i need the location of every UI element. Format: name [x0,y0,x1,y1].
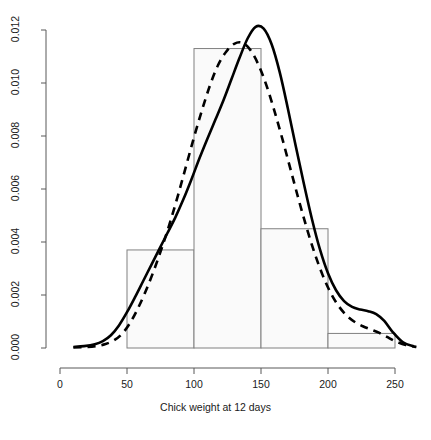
histogram-bar [194,49,261,348]
x-tick-label: 250 [365,378,425,390]
histogram-bar [328,333,395,348]
histogram-bar [127,250,194,348]
x-tick-label: 100 [164,378,224,390]
histogram-bars [127,49,395,348]
x-axis-line [60,368,395,374]
y-tick-label: 0.004 [9,210,21,272]
x-tick-label: 0 [30,378,90,390]
x-tick-label: 150 [231,378,291,390]
x-tick-label: 200 [298,378,358,390]
y-tick-label: 0.010 [9,51,21,113]
x-tick-label: 50 [97,378,157,390]
y-tick-label: 0.008 [9,104,21,166]
y-tick-label: 0.012 [9,0,21,60]
y-tick-label: 0.006 [9,157,21,219]
y-tick-label: 0.002 [9,263,21,325]
y-tick-label: 0.000 [9,316,21,378]
y-axis-line [41,30,46,348]
density-histogram-plot [0,0,431,440]
x-axis-title: Chick weight at 12 days [0,401,431,413]
